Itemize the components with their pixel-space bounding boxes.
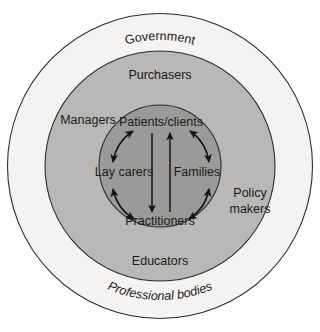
label-patients-clients: Patients/clients (119, 115, 203, 129)
label-lay-carers: Lay carers (95, 165, 153, 179)
diagram-canvas: Government Professional bodies Purchaser… (0, 0, 320, 332)
label-purchasers: Purchasers (128, 68, 191, 82)
label-practitioners: Practitioners (125, 214, 194, 228)
concentric-circles-diagram: Government Professional bodies Purchaser… (0, 0, 320, 332)
label-families: Families (174, 165, 221, 179)
label-educators: Educators (132, 254, 188, 268)
label-managers: Managers (60, 113, 116, 127)
label-policy-makers-line1: Policy (233, 186, 267, 200)
label-policy-makers-line2: makers (230, 202, 271, 216)
